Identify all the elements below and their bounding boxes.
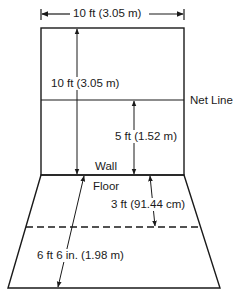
floor-depth-label: 6 ft 6 in. (1.98 m) <box>36 249 125 262</box>
wall-height-label: 10 ft (3.05 m) <box>50 77 120 90</box>
wall-outline <box>41 28 184 175</box>
net-height-label: 5 ft (1.52 m) <box>114 130 178 143</box>
floor-label: Floor <box>92 180 120 193</box>
floor-line-distance-label: 3 ft (91.44 cm) <box>110 198 186 211</box>
floor-depth-arrow <box>58 176 84 287</box>
wall-label: Wall <box>94 160 118 173</box>
net-line-label: Net Line <box>189 94 234 107</box>
wall-width-label: 10 ft (3.05 m) <box>72 7 142 20</box>
